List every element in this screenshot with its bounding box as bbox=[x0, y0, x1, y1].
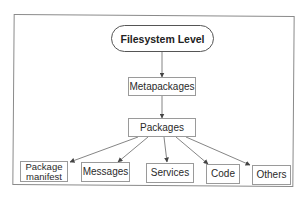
node-label: Messages bbox=[83, 167, 129, 177]
node-services: Services bbox=[146, 163, 194, 183]
node-package-manifest: Package manifest bbox=[20, 161, 68, 182]
node-messages: Messages bbox=[81, 162, 130, 182]
node-code: Code bbox=[206, 164, 240, 184]
node-metapackages: Metapackages bbox=[128, 77, 196, 96]
edge-packages-code bbox=[176, 137, 208, 164]
node-label-line-2: manifest bbox=[26, 172, 62, 182]
node-packages: Packages bbox=[128, 118, 196, 137]
edge-packages-messages bbox=[118, 137, 148, 162]
node-label: Metapackages bbox=[129, 82, 194, 92]
edge-packages-manifest bbox=[70, 137, 138, 162]
diagram-canvas: Filesystem Level Metapackages Packages P… bbox=[0, 0, 306, 199]
edge-packages-services bbox=[164, 137, 167, 162]
node-label: Services bbox=[151, 168, 189, 178]
edge-packages-others bbox=[186, 137, 250, 165]
node-label: Code bbox=[211, 169, 235, 179]
node-label: Packages bbox=[140, 123, 184, 133]
node-filesystem-level: Filesystem Level bbox=[111, 25, 214, 52]
node-others: Others bbox=[252, 165, 291, 185]
node-label: Others bbox=[256, 170, 286, 180]
node-label: Filesystem Level bbox=[120, 34, 204, 44]
